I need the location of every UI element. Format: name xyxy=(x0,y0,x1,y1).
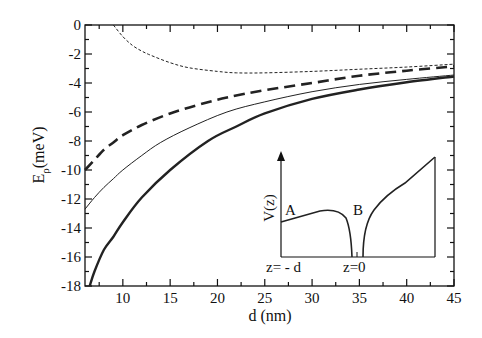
x-tick-label: 20 xyxy=(210,290,225,306)
inset-y-label: V(z) xyxy=(261,194,278,221)
y-axis-title-main: E xyxy=(30,174,47,184)
curve-thin-dashed xyxy=(113,25,454,73)
curve-thin-solid xyxy=(85,75,454,209)
y-tick-label: -14 xyxy=(61,220,81,236)
x-tick-label: 35 xyxy=(352,290,367,306)
y-tick-label: -6 xyxy=(69,104,82,120)
y-tick-label: -10 xyxy=(61,162,81,178)
y-tick-label: 0 xyxy=(74,17,82,33)
plot-frame xyxy=(85,25,454,286)
arrow-up-icon xyxy=(277,151,285,161)
inset-label-b: B xyxy=(353,202,363,218)
y-axis-title: Eρ(meV) xyxy=(30,126,51,183)
inset-x-label-right: z=0 xyxy=(343,259,366,275)
inset-potential-diagram: V(z) A B z= - d z=0 xyxy=(261,151,435,275)
x-tick-label: 40 xyxy=(399,290,414,306)
y-tick-label: -18 xyxy=(61,278,81,294)
data-curves xyxy=(85,25,454,286)
y-tick-label: -2 xyxy=(69,46,82,62)
y-tick-label: -12 xyxy=(61,191,81,207)
x-tick-label: 25 xyxy=(257,290,272,306)
svg-text:V(z): V(z) xyxy=(261,194,278,221)
x-tick-label: 30 xyxy=(305,290,320,306)
svg-text:Eρ(meV): Eρ(meV) xyxy=(30,126,51,183)
x-tick-label: 45 xyxy=(447,290,462,306)
y-tick-label: -8 xyxy=(69,133,82,149)
y-axis-title-unit: (meV) xyxy=(30,126,48,168)
inset-x-label-left: z= - d xyxy=(266,259,302,275)
inset-label-a: A xyxy=(285,202,296,218)
curve-thick-dashed xyxy=(85,66,454,170)
y-tick-label: -16 xyxy=(61,249,81,265)
x-tick-label: 10 xyxy=(115,290,130,306)
x-tick-label: 15 xyxy=(163,290,178,306)
plot-area: 1015202530354045 0-2-4-6-8-10-12-14-16-1… xyxy=(61,17,462,306)
x-axis-title: d (nm) xyxy=(248,307,291,325)
y-tick-label: -4 xyxy=(69,75,82,91)
curve-thick-solid xyxy=(90,76,454,286)
inset-potential-right xyxy=(363,157,435,257)
y-axis-ticks: 0-2-4-6-8-10-12-14-16-18 xyxy=(61,17,454,294)
chart-svg: 1015202530354045 0-2-4-6-8-10-12-14-16-1… xyxy=(0,0,482,338)
